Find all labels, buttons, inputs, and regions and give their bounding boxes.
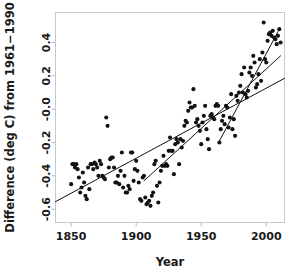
- data-point: [86, 165, 90, 169]
- data-point: [87, 187, 91, 191]
- y-tick-label: -0.6: [40, 197, 53, 221]
- data-point: [181, 139, 185, 143]
- data-point: [249, 65, 253, 69]
- data-point: [130, 150, 134, 154]
- x-tick-label: 1900: [121, 230, 152, 243]
- data-point: [139, 199, 143, 203]
- data-point: [229, 92, 233, 96]
- data-point: [185, 120, 189, 124]
- data-point: [143, 195, 147, 199]
- data-point: [122, 174, 126, 178]
- y-tick-label: -0.0: [40, 97, 53, 121]
- data-point: [271, 29, 275, 33]
- data-point: [156, 200, 160, 204]
- data-point: [219, 127, 223, 131]
- data-point: [259, 79, 263, 83]
- data-point: [251, 54, 255, 58]
- chart-canvas: 1850190019502000 -0.6-0.4-0.2-0.00.20.4 …: [0, 0, 307, 273]
- data-point: [128, 187, 132, 191]
- data-point: [277, 27, 281, 31]
- data-point: [199, 142, 203, 146]
- data-point: [135, 169, 139, 173]
- data-point: [242, 65, 246, 69]
- data-point: [216, 104, 220, 108]
- data-point: [82, 180, 86, 184]
- x-tick-label: 2000: [251, 230, 282, 243]
- data-point: [69, 182, 73, 186]
- data-point: [151, 190, 155, 194]
- data-point: [176, 140, 180, 144]
- data-point: [120, 150, 124, 154]
- x-tick-label: 1850: [56, 230, 87, 243]
- data-point: [247, 70, 251, 74]
- data-point: [266, 39, 270, 43]
- y-tick-label: 0.2: [40, 66, 53, 86]
- data-point: [132, 179, 136, 183]
- data-point: [161, 154, 165, 158]
- data-point: [85, 197, 89, 201]
- y-tick-label: -0.2: [40, 130, 53, 154]
- data-point: [260, 50, 264, 54]
- data-point: [230, 127, 234, 131]
- data-point: [147, 199, 151, 203]
- data-point: [142, 174, 146, 178]
- data-point: [195, 117, 199, 121]
- data-point: [172, 172, 176, 176]
- data-point: [186, 109, 190, 113]
- data-point: [158, 180, 162, 184]
- data-point: [107, 165, 111, 169]
- data-point: [279, 40, 283, 44]
- data-point: [103, 177, 107, 181]
- data-point: [262, 20, 266, 24]
- data-point: [119, 169, 123, 173]
- data-point: [106, 124, 110, 128]
- data-point: [111, 155, 115, 159]
- data-point: [165, 164, 169, 168]
- data-point: [223, 122, 227, 126]
- data-point: [95, 165, 99, 169]
- data-point: [117, 182, 121, 186]
- data-point: [204, 127, 208, 131]
- data-point: [258, 57, 262, 61]
- temperature-anomaly-figure: 1850190019502000 -0.6-0.4-0.2-0.00.20.4 …: [0, 0, 307, 273]
- y-tick-label: 0.4: [40, 32, 53, 52]
- data-point: [125, 190, 129, 194]
- data-point: [253, 60, 257, 64]
- data-point: [193, 104, 197, 108]
- data-point: [77, 175, 81, 179]
- data-point: [155, 184, 159, 188]
- data-point: [240, 72, 244, 76]
- data-point: [121, 185, 125, 189]
- data-point: [137, 180, 141, 184]
- data-point: [154, 159, 158, 163]
- data-point: [233, 134, 237, 138]
- data-point: [182, 124, 186, 128]
- data-point: [104, 115, 108, 119]
- data-point: [177, 162, 181, 166]
- data-point: [238, 84, 242, 88]
- y-axis-title: Difference (deg C) from 1961−1990: [3, 2, 17, 232]
- data-point: [275, 42, 279, 46]
- data-point: [255, 82, 259, 86]
- data-point: [264, 60, 268, 64]
- data-point: [81, 170, 85, 174]
- data-point: [159, 169, 163, 173]
- data-point: [116, 174, 120, 178]
- data-point: [187, 100, 191, 104]
- data-point: [76, 167, 80, 171]
- data-point: [221, 114, 225, 118]
- x-tick-label: 1950: [186, 230, 217, 243]
- data-point: [99, 162, 103, 166]
- data-point: [220, 119, 224, 123]
- data-point: [91, 167, 95, 171]
- data-point: [206, 137, 210, 141]
- data-point: [202, 114, 206, 118]
- data-point: [78, 190, 82, 194]
- data-point: [207, 147, 211, 151]
- data-point: [171, 149, 175, 153]
- data-point: [203, 104, 207, 108]
- x-axis-title: Year: [155, 255, 185, 269]
- data-point: [191, 87, 195, 91]
- data-point: [74, 162, 78, 166]
- y-tick-label: -0.4: [40, 163, 53, 187]
